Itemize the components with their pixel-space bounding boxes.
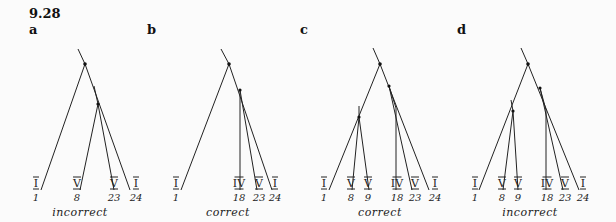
panel-letter: b: [147, 22, 156, 37]
panel-letter: a: [29, 22, 38, 37]
leaf-number: 23: [408, 192, 422, 203]
root-branch: [221, 49, 229, 64]
leaf-label: V9: [513, 177, 523, 203]
roman-numeral: V: [410, 177, 420, 190]
leaf-label: I1: [472, 177, 478, 203]
verdict-label: correct: [358, 206, 402, 219]
leaf-number: 8: [499, 192, 505, 203]
node-dot: [387, 84, 390, 87]
roman-numeral: V: [254, 177, 264, 190]
node-dot: [378, 62, 382, 66]
roman-numeral: IV: [541, 177, 554, 190]
verdict-label: incorrect: [502, 206, 558, 219]
leaf-label: I1: [33, 177, 39, 203]
branch-line: [528, 64, 579, 190]
roman-numeral: V: [72, 177, 82, 190]
node-dot: [357, 115, 360, 118]
leaf-number: 24: [268, 192, 282, 203]
leaf-label: I24: [428, 177, 442, 203]
leaf-label: I24: [576, 177, 590, 203]
leaf-number: 1: [33, 192, 39, 203]
roman-numeral: I: [473, 177, 477, 190]
roman-numeral: I: [174, 177, 178, 190]
panel-letter: d: [457, 22, 466, 37]
verdict-label: incorrect: [52, 206, 108, 219]
roman-numeral: I: [433, 177, 437, 190]
roman-numeral: IV: [233, 177, 246, 190]
leaf-label: V8: [346, 177, 356, 203]
node-dot: [96, 102, 99, 105]
panels: aI1V8V23I24incorrectbI1IV18V23I24correct…: [29, 22, 589, 219]
branch-line: [511, 100, 513, 111]
branch-line: [85, 64, 130, 190]
roman-numeral: V: [497, 177, 507, 190]
roman-numeral: V: [560, 177, 570, 190]
leaf-label: V23: [558, 177, 572, 203]
roman-numeral: I: [273, 177, 277, 190]
leaf-number: 18: [233, 192, 246, 203]
leaf-label: IV18: [541, 177, 555, 203]
node-dot: [511, 109, 514, 112]
verdict-label: correct: [206, 206, 250, 219]
panel-c: cI1V8V9IV18V23I24correct: [300, 22, 441, 219]
panel-a: aI1V8V23I24incorrect: [29, 22, 142, 219]
leaf-label: IV18: [391, 177, 405, 203]
panel-b: bI1IV18V23I24correct: [147, 22, 281, 219]
roman-numeral: V: [109, 177, 119, 190]
leaf-number: 1: [173, 192, 179, 203]
leaf-label: V8: [497, 177, 507, 203]
branch-line: [329, 64, 380, 190]
leaf-number: 8: [348, 192, 354, 203]
leaf-label: I24: [268, 177, 282, 203]
leaf-number: 23: [558, 192, 572, 203]
node-dot: [238, 88, 241, 91]
leaf-label: IV18: [233, 177, 247, 203]
branch-line: [41, 64, 85, 190]
roman-numeral: I: [134, 177, 138, 190]
figure-9-28: 9.28 aI1V8V23I24incorrectbI1IV18V23I24co…: [0, 0, 616, 222]
figure-number: 9.28: [29, 6, 61, 21]
node-dot: [526, 62, 530, 66]
panel-d: dI1V8V9IV18V23I24incorrect: [457, 22, 589, 219]
leaf-number: 8: [74, 192, 80, 203]
leaf-number: 9: [515, 192, 522, 203]
roman-numeral: V: [346, 177, 356, 190]
node-dot: [538, 86, 541, 89]
leaf-number: 24: [576, 192, 590, 203]
root-branch: [521, 48, 528, 64]
root-branch: [373, 48, 380, 64]
branch-line: [94, 86, 98, 104]
roman-numeral: V: [513, 177, 523, 190]
leaf-label: V8: [72, 177, 82, 203]
leaf-label: V23: [252, 177, 266, 203]
roman-numeral: I: [322, 177, 326, 190]
leaf-label: V9: [363, 177, 373, 203]
leaf-label: I1: [321, 177, 327, 203]
leaf-number: 1: [321, 192, 327, 203]
branch-line: [181, 64, 229, 190]
leaf-number: 18: [391, 192, 404, 203]
branch-line: [479, 64, 528, 190]
roman-numeral: IV: [391, 177, 404, 190]
branch-line: [380, 64, 429, 190]
node-dot: [83, 62, 87, 66]
leaf-number: 23: [107, 192, 121, 203]
leaf-label: I1: [173, 177, 179, 203]
leaf-number: 24: [428, 192, 442, 203]
roman-numeral: I: [34, 177, 38, 190]
roman-numeral: I: [581, 177, 585, 190]
node-dot: [227, 62, 231, 66]
leaf-number: 24: [129, 192, 143, 203]
roman-numeral: V: [363, 177, 373, 190]
leaf-number: 1: [472, 192, 478, 203]
leaf-number: 18: [541, 192, 554, 203]
branch-line: [80, 104, 98, 190]
root-branch: [78, 49, 85, 64]
tree-diagrams: 9.28 aI1V8V23I24incorrectbI1IV18V23I24co…: [0, 0, 616, 222]
branch-line: [540, 88, 563, 190]
leaf-number: 23: [252, 192, 266, 203]
leaf-number: 9: [365, 192, 372, 203]
panel-letter: c: [300, 22, 308, 37]
branch-line: [229, 64, 272, 190]
leaf-label: I24: [129, 177, 143, 203]
